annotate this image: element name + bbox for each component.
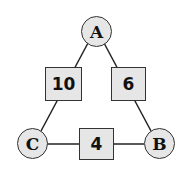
edge-weight-ac-label: 10 bbox=[52, 74, 76, 94]
node-c: C bbox=[17, 128, 48, 159]
node-a-label: A bbox=[90, 22, 103, 42]
node-c-label: C bbox=[26, 134, 40, 154]
node-b-label: B bbox=[152, 134, 166, 154]
edge-weight-ab-label: 6 bbox=[123, 74, 135, 94]
node-a: A bbox=[81, 16, 112, 47]
edge-weight-ab: 6 bbox=[111, 67, 146, 101]
edge-weight-ac: 10 bbox=[45, 67, 82, 101]
edge-weight-cb-label: 4 bbox=[91, 134, 103, 154]
edge-weight-cb: 4 bbox=[79, 128, 114, 160]
node-b: B bbox=[144, 128, 175, 159]
